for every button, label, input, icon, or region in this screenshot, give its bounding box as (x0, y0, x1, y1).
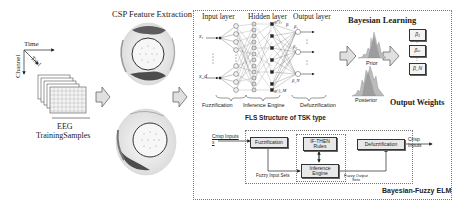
crisp-input-label: Crisp Inputs x (212, 134, 242, 145)
weight-box-betam: βₘ (409, 45, 426, 57)
input-x1-label: x₁ (199, 34, 203, 40)
stage-fuzzification-label: Fuzzification (202, 103, 233, 109)
prior-label: Prior (366, 61, 378, 67)
csp-topomap-1-icon (121, 23, 175, 85)
weight-box-betan: β_N (409, 63, 426, 75)
hidden-gm-label: g(·)_M (274, 89, 286, 94)
bayesian-learning-title: Bayesian Learning (348, 16, 416, 25)
output-beta2-label: β₂ (293, 45, 297, 50)
fuzzy-input-sets-label: Fuzzy Input Sets (256, 174, 290, 179)
input-layer-label: Input layer (202, 13, 235, 21)
output-layer-label: Output layer (293, 13, 331, 21)
csp-topomap-2-icon (116, 109, 176, 175)
posterior-label: Posterior (355, 98, 377, 104)
output-weights-title: Output Weights (390, 99, 444, 107)
training-samples-label: TrainingSamples (36, 132, 90, 140)
crisp-output-label: Crisp Inputs (408, 137, 430, 148)
defuzzification-box: Defuzzification (357, 139, 405, 150)
if-then-rules-box: IF-THEN Rules (303, 137, 337, 151)
stage-inference-label: Inference Engine (243, 103, 285, 109)
input-xd-label: x_d (199, 74, 207, 80)
output-betan-label: β_N (292, 79, 300, 84)
eeg-label: EEG (57, 123, 73, 131)
fuzzy-output-sets-label: Fuzzy Output Sets (342, 174, 370, 183)
inference-engine-box: Inference Engine (301, 164, 339, 178)
axis-channel-label: Channel (15, 55, 22, 78)
bayesian-fuzzy-elm-diagram: Time Trial Channel EEG TrainingSamples C… (0, 0, 464, 206)
fls-structure-title: FLS Structure of TSK type (245, 115, 326, 122)
csp-title: CSP Feature Extraction (112, 10, 192, 19)
beta-label: β (286, 22, 289, 27)
axis-time-label: Time (24, 41, 39, 48)
weight-box-beta1: β₁ (409, 29, 426, 41)
stage-defuzzification-label: Defuzzification (300, 103, 336, 109)
fuzzification-box: Fuzzification (250, 137, 288, 148)
output-beta1-label: β₁ (294, 25, 298, 30)
bayesian-fuzzy-elm-label: Bayesian-Fuzzy ELM (382, 187, 451, 194)
hidden-g1-label: g(·)₁ (274, 20, 282, 25)
